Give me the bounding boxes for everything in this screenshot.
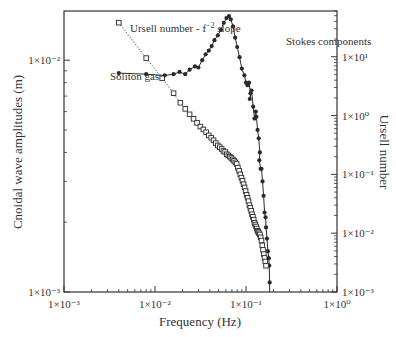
plot-frame: [64, 11, 337, 292]
x-tick-label: 1×10⁰: [323, 298, 351, 310]
circle-marker: [254, 110, 258, 114]
circle-marker: [262, 211, 266, 215]
plot-area-border: [64, 11, 337, 292]
square-marker: [264, 263, 269, 268]
circle-marker: [183, 72, 187, 76]
circle-marker: [255, 128, 259, 132]
square-marker: [178, 100, 183, 105]
y-tick-label: 1×10⁻³: [28, 286, 61, 298]
circle-marker: [212, 38, 216, 42]
circle-marker: [187, 68, 191, 72]
square-marker: [183, 107, 188, 112]
circle-marker: [177, 70, 181, 74]
annotation-label: Soliton gas: [110, 70, 159, 82]
square-marker: [171, 91, 176, 96]
circle-marker: [248, 97, 252, 101]
circle-marker: [235, 45, 239, 49]
x-axis-title: Frequency (Hz): [159, 314, 241, 329]
y2-tick-label: 1×10⁻²: [342, 227, 375, 239]
circle-marker: [254, 115, 258, 119]
square-marker: [160, 76, 165, 81]
y2-axis-title: Ursell number: [377, 115, 392, 190]
y2-tick-label: 1×10⁻³: [342, 286, 375, 298]
circle-marker: [242, 73, 246, 77]
annotation-label: Stokes components: [286, 35, 371, 47]
circle-marker: [247, 81, 251, 85]
circle-marker: [171, 72, 175, 76]
amplitude-series: [117, 14, 272, 285]
x-tick-label: 1×10⁻³: [48, 298, 81, 310]
square-marker: [144, 56, 149, 61]
data-series: [116, 14, 271, 292]
square-marker: [260, 243, 265, 248]
x-tick-label: 1×10⁻¹: [230, 298, 262, 310]
annotation-label: Ursell number - f−2 slope: [130, 21, 241, 34]
series-line: [119, 16, 270, 282]
circle-marker: [249, 88, 253, 92]
circle-marker: [229, 17, 233, 21]
circle-marker: [264, 225, 268, 229]
square-marker: [187, 112, 192, 117]
circle-marker: [210, 44, 214, 48]
circle-marker: [237, 55, 241, 59]
circle-marker: [257, 158, 261, 162]
circle-marker: [200, 58, 204, 62]
circle-marker: [259, 167, 263, 171]
ursell-number-series: [116, 20, 268, 268]
circle-marker: [258, 150, 262, 154]
circle-marker: [260, 179, 264, 183]
square-marker: [259, 238, 264, 243]
y2-tick-label: 1×10⁻¹: [342, 168, 374, 180]
y2-tick-label: 1×10¹: [342, 51, 368, 63]
y2-tick-label: 1×10⁰: [342, 110, 370, 122]
axis-labels: Frequency (Hz) Cnoidal wave amplitudes (…: [10, 75, 392, 329]
x-tick-label: 1×10⁻²: [139, 298, 172, 310]
y-axis-title: Cnoidal wave amplitudes (m): [10, 75, 25, 229]
y-tick-label: 1×10⁻²: [28, 54, 61, 66]
circle-marker: [240, 66, 244, 70]
axis-ticks: 1×10⁻³1×10⁻²1×10⁻¹1×10⁰1×10⁻³1×10⁻²1×10⁻…: [28, 11, 374, 310]
circle-marker: [251, 105, 255, 109]
circle-marker: [265, 236, 269, 240]
circle-marker: [257, 136, 261, 140]
circle-marker: [261, 194, 265, 198]
chart-canvas: 1×10⁻³1×10⁻²1×10⁻¹1×10⁰1×10⁻³1×10⁻²1×10⁻…: [0, 0, 396, 337]
annotations: Ursell number - f−2 slopeSoliton gasStok…: [110, 21, 371, 82]
circle-marker: [263, 215, 267, 219]
circle-marker: [196, 65, 200, 69]
circle-marker: [207, 48, 211, 52]
circle-marker: [233, 36, 237, 40]
square-marker: [116, 20, 121, 25]
circle-marker: [204, 52, 208, 56]
series-line: [119, 23, 266, 266]
